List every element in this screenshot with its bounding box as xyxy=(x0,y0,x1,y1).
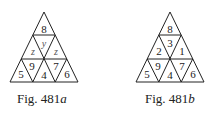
cell-mid-right: 1 xyxy=(179,45,185,57)
cell-bot-1: 5 xyxy=(18,68,24,80)
cell-bot-5: 6 xyxy=(64,68,70,80)
cell-bot-4: 7 xyxy=(179,60,185,72)
triangle-labels-a: 8 z y z 5 9 4 7 6 xyxy=(18,23,70,81)
cell-bot-2: 9 xyxy=(155,60,161,72)
caption-suffix: b xyxy=(188,91,195,106)
triangle-labels-b: 8 2 3 1 5 9 4 7 6 xyxy=(144,23,196,81)
caption-suffix: a xyxy=(60,91,67,106)
cell-mid-center: y xyxy=(41,38,47,49)
cell-mid-center: 3 xyxy=(167,37,173,49)
cell-mid-left: 2 xyxy=(156,45,162,57)
cell-bot-2: 9 xyxy=(29,60,35,72)
cell-bot-3: 4 xyxy=(41,69,47,81)
cell-bot-1: 5 xyxy=(144,68,150,80)
cell-bot-4: 7 xyxy=(53,60,59,72)
cell-bot-3: 4 xyxy=(167,69,173,81)
cell-top: 8 xyxy=(41,23,47,35)
caption-prefix: Fig. 481 xyxy=(145,91,188,106)
cell-mid-right: z xyxy=(53,46,58,57)
cell-top: 8 xyxy=(167,23,173,35)
cell-mid-left: z xyxy=(30,46,35,57)
cell-bot-5: 6 xyxy=(190,68,196,80)
caption-fig-a: Fig. 481a xyxy=(17,91,67,107)
caption-prefix: Fig. 481 xyxy=(17,91,60,106)
caption-fig-b: Fig. 481b xyxy=(145,91,195,107)
